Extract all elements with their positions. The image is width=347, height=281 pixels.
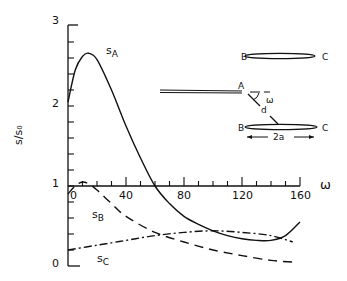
inset-diagram: B C A ω d B C 2a <box>160 52 328 142</box>
x-axis-label: ω <box>320 177 331 192</box>
inset-label-top-b: B <box>241 52 247 62</box>
label-s-a: sA <box>106 44 119 59</box>
y-axis-label: s/s₀ <box>12 125 25 145</box>
chart-canvas: 3 2 1 0 s/s₀ 0 40 80 120 160 ω sA sB sC … <box>0 0 347 281</box>
x-axis: 0 40 80 120 160 ω <box>68 177 331 202</box>
label-s-b: sB <box>92 208 104 223</box>
y-tick-0: 0 <box>52 257 59 270</box>
inset-label-bottom-c: C <box>322 123 328 133</box>
x-tick-80: 80 <box>177 189 191 202</box>
inset-label-a: A <box>238 81 245 91</box>
inset-label-d: d <box>261 105 267 115</box>
inset-label-bottom-b: B <box>238 123 244 133</box>
y-tick-3: 3 <box>52 14 59 27</box>
inset-label-omega: ω <box>266 95 274 105</box>
y-axis: 3 2 1 0 s/s₀ <box>12 14 80 270</box>
inset-label-top-c: C <box>322 52 328 62</box>
y-tick-1: 1 <box>52 177 59 190</box>
inset-label-2a: 2a <box>273 132 284 142</box>
x-tick-160: 160 <box>290 189 311 202</box>
x-tick-40: 40 <box>119 189 133 202</box>
label-s-c: sC <box>97 252 109 267</box>
y-tick-2: 2 <box>52 97 59 110</box>
x-tick-120: 120 <box>232 189 253 202</box>
